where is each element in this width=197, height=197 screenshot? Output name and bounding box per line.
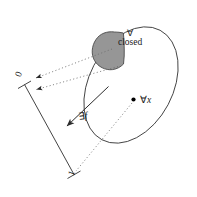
math-figure: ∀ closed ∀x ∃f 0 1	[0, 0, 197, 197]
forall-x-var: x	[147, 95, 151, 105]
unit-interval-segment	[18, 81, 81, 179]
exists-f-label: ∃f	[78, 111, 88, 123]
figure-canvas	[0, 0, 197, 197]
forall-x-label: ∀x	[140, 96, 151, 106]
mapping-dotted-lower	[37, 67, 119, 90]
forall-x-symbol: ∀	[140, 95, 147, 105]
forall-x-point	[131, 97, 135, 101]
closed-set-label: ∀ closed	[118, 29, 142, 48]
closed-text: closed	[118, 38, 142, 48]
